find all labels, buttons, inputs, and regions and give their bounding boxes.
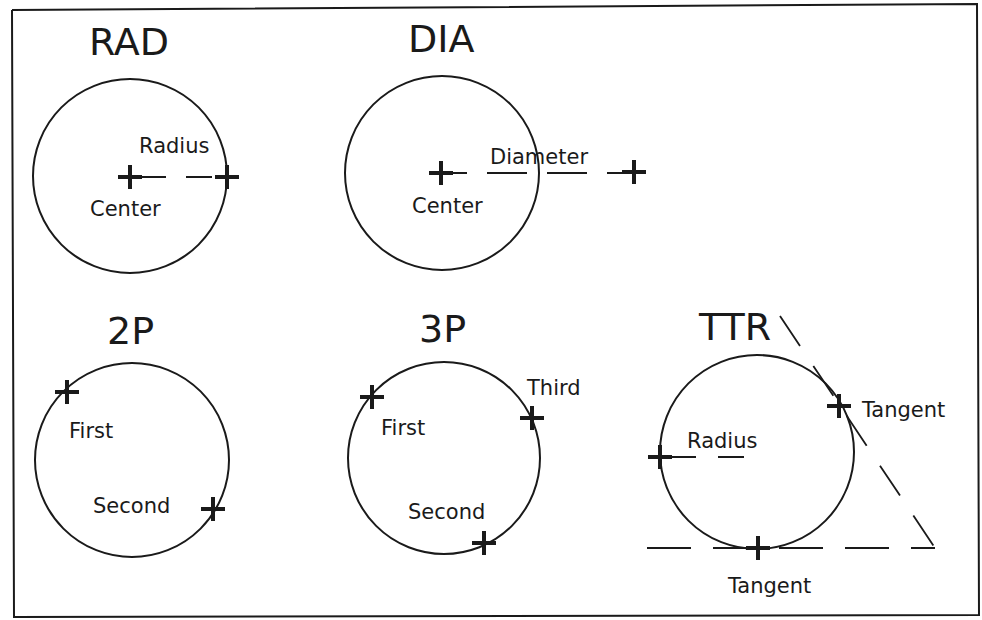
panel-rad: RAD Radius Center	[33, 20, 239, 273]
panel-title-rad: RAD	[89, 20, 169, 64]
panel-title-dia: DIA	[408, 17, 474, 61]
ttr-tangent-right-label: Tangent	[861, 398, 945, 422]
third-point-marker-icon	[520, 406, 544, 430]
tangent-point-marker-icon	[746, 536, 770, 560]
panel-dia: DIA Diameter Center	[345, 17, 646, 270]
rad-radius-label: Radius	[139, 134, 209, 158]
2p-second-label: Second	[93, 494, 170, 518]
second-point-marker-icon	[201, 497, 225, 521]
radius-point-marker-icon	[215, 165, 239, 189]
center-point-marker-icon	[118, 165, 142, 189]
ttr-tangent-bottom-label: Tangent	[727, 574, 811, 598]
3p-second-label: Second	[408, 500, 485, 524]
3p-third-label: Third	[526, 376, 581, 400]
2p-first-label: First	[69, 419, 113, 443]
first-point-marker-icon	[55, 380, 79, 404]
ttr-radius-label: Radius	[687, 429, 757, 453]
dia-center-label: Center	[412, 194, 483, 218]
circle-methods-diagram: RAD Radius Center DIA Diameter Center 2P	[0, 0, 982, 620]
panel-title-3p: 3P	[419, 307, 466, 351]
ttr-tangent-line-diagonal	[780, 316, 935, 548]
panel-2p: 2P First Second	[35, 309, 229, 557]
radius-point-marker-icon	[648, 445, 672, 469]
second-point-marker-icon	[472, 531, 496, 555]
diameter-point-marker-icon	[622, 160, 646, 184]
3p-first-label: First	[381, 416, 425, 440]
rad-center-label: Center	[90, 197, 161, 221]
3p-circle	[348, 362, 540, 554]
panel-ttr: TTR Tangent Radius Tangent	[647, 305, 945, 598]
panel-title-ttr: TTR	[698, 305, 771, 349]
panel-3p: 3P First Third Second	[348, 307, 581, 555]
center-point-marker-icon	[429, 161, 453, 185]
panel-title-2p: 2P	[107, 309, 154, 353]
dia-diameter-label: Diameter	[490, 145, 588, 169]
frame-border	[12, 4, 979, 617]
